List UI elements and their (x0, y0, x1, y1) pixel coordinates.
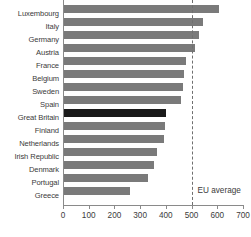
bar (63, 174, 148, 182)
bar (63, 109, 166, 117)
bar (63, 70, 184, 78)
category-label: Belgium (0, 75, 59, 83)
category-label: Portugal (0, 179, 59, 187)
category-label: Spain (0, 101, 59, 109)
bar (63, 96, 181, 104)
bar (63, 57, 186, 65)
x-axis-tick-label: 200 (108, 211, 122, 220)
x-axis-tick (166, 205, 167, 209)
bar (63, 161, 154, 169)
x-axis-tick (140, 205, 141, 209)
bar (63, 31, 199, 39)
bar-chart: LuxembourgItalyGermanyAustriaFranceBelgi… (0, 0, 251, 237)
x-axis-tick-label: 400 (159, 211, 173, 220)
bar (63, 5, 219, 13)
bar (63, 135, 164, 143)
category-label: France (0, 62, 59, 70)
category-label: Germany (0, 36, 59, 44)
x-axis-tick (114, 205, 115, 209)
bar (63, 83, 183, 91)
x-axis-tick (243, 205, 244, 209)
x-axis-tick (89, 205, 90, 209)
x-axis-tick-label: 600 (210, 211, 224, 220)
category-label: Netherlands (0, 140, 59, 148)
category-label: Austria (0, 49, 59, 57)
category-label: Great Britain (0, 114, 59, 122)
x-axis-tick (63, 205, 64, 209)
eu-average-label: EU average (198, 186, 241, 195)
y-axis-line (63, 0, 64, 205)
x-axis-tick-label: 700 (236, 211, 250, 220)
x-axis-line (63, 205, 243, 206)
bar (63, 187, 130, 195)
plot-area (63, 0, 243, 205)
category-axis-labels: LuxembourgItalyGermanyAustriaFranceBelgi… (0, 5, 59, 200)
x-axis-tick-label: 300 (133, 211, 147, 220)
category-label: Sweden (0, 88, 59, 96)
bar (63, 44, 195, 52)
eu-average-line (192, 0, 193, 205)
x-axis-tick (192, 205, 193, 209)
bar (63, 18, 203, 26)
x-axis-tick-label: 500 (185, 211, 199, 220)
category-label: Greece (0, 192, 59, 200)
category-label: Luxembourg (0, 10, 59, 18)
x-axis-tick (217, 205, 218, 209)
bar (63, 148, 157, 156)
category-label: Irish Republic (0, 153, 59, 161)
category-label: Finland (0, 127, 59, 135)
category-label: Italy (0, 23, 59, 31)
x-axis-tick-label: 100 (82, 211, 96, 220)
category-label: Denmark (0, 166, 59, 174)
bar (63, 122, 165, 130)
x-axis-tick-label: 0 (61, 211, 66, 220)
